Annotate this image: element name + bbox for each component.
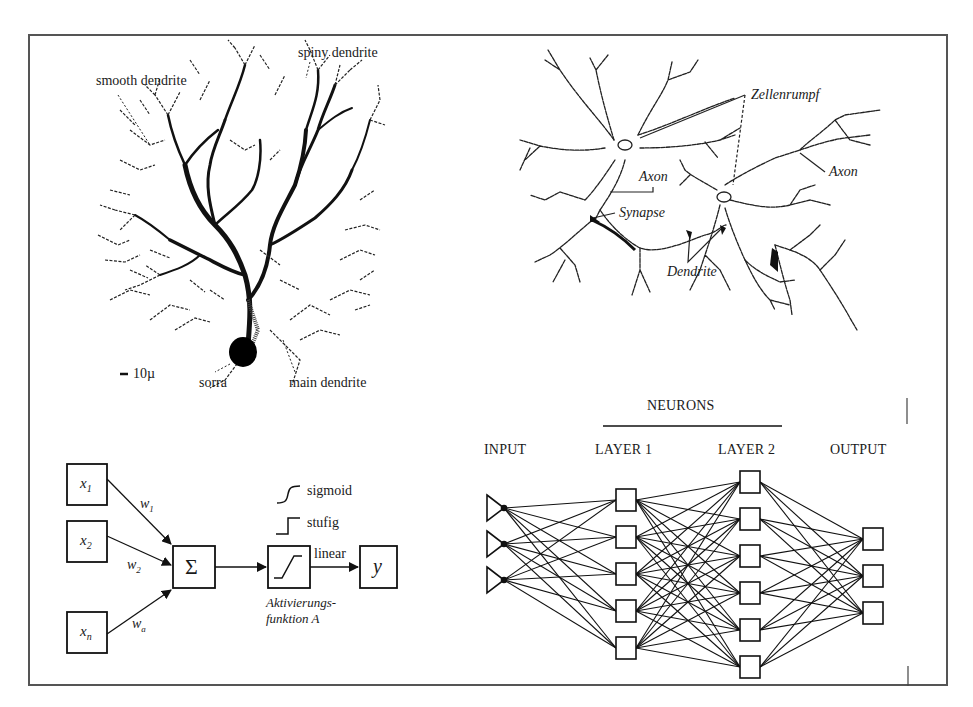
neuron-node	[616, 600, 636, 622]
neuron-node	[863, 528, 883, 550]
multilayer-network	[0, 0, 973, 707]
neuron-node	[616, 563, 636, 585]
neuron-node	[740, 582, 760, 604]
neuron-node	[740, 545, 760, 567]
neuron-node	[863, 565, 883, 587]
neuron-node	[863, 602, 883, 624]
neuron-node	[616, 637, 636, 659]
neuron-node	[740, 471, 760, 493]
figure: spiny dendrite smooth dendrite 10µ sorra…	[0, 0, 973, 707]
neuron-node	[740, 619, 760, 641]
column-label-output: OUTPUT	[830, 443, 886, 457]
neuron-node	[616, 526, 636, 548]
column-label-layer1: LAYER 1	[595, 443, 652, 457]
neuron-node	[740, 508, 760, 530]
neuron-node	[740, 656, 760, 678]
column-label-layer2: LAYER 2	[718, 443, 775, 457]
neuron-node	[616, 489, 636, 511]
column-label-input: INPUT	[484, 443, 526, 457]
network-header-neurons: NEURONS	[647, 399, 715, 413]
